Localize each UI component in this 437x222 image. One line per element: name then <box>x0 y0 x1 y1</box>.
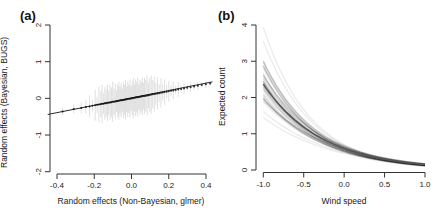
y-tick-label: -1 <box>34 131 43 139</box>
data-point <box>166 91 168 93</box>
data-point <box>160 92 162 94</box>
x-tick-label: 0.0 <box>126 181 138 190</box>
panel-a-label: (a) <box>20 9 36 23</box>
posterior-draw-curve <box>263 118 425 165</box>
data-point <box>96 104 98 106</box>
data-point <box>183 87 185 89</box>
data-point <box>180 88 182 90</box>
data-point <box>193 86 195 88</box>
data-point <box>209 83 211 85</box>
data-point <box>177 89 179 91</box>
x-tick-label: -1.0 <box>256 180 270 189</box>
data-point <box>155 93 157 95</box>
data-point <box>197 85 199 87</box>
data-point <box>172 89 174 91</box>
panel-b-y-axis-title: Expected count <box>217 67 227 126</box>
data-point <box>62 111 64 113</box>
x-tick-label: -0.2 <box>87 181 101 190</box>
data-point <box>162 91 164 93</box>
data-point <box>205 83 207 85</box>
x-tick-label: 0.4 <box>200 181 212 190</box>
data-point <box>98 103 100 105</box>
data-point <box>170 90 172 92</box>
x-tick-label: -0.4 <box>50 181 64 190</box>
data-point <box>164 91 166 93</box>
y-tick-label: 2 <box>240 95 249 100</box>
panel-a-x-axis-title: Random effects (Non-Bayesian, glmer) <box>36 196 226 206</box>
posterior-draw-curve <box>263 89 425 166</box>
x-tick-label: 0.5 <box>379 180 391 189</box>
panel-b-x-axis-title: Wind speed <box>254 196 434 206</box>
panel-a-y-axis-title: Random effects (Bayesian, BUGS) <box>0 37 9 168</box>
data-point <box>168 90 170 92</box>
data-point <box>175 89 177 91</box>
data-point <box>89 105 91 107</box>
data-point <box>156 92 158 94</box>
y-tick-label: 1 <box>34 59 43 64</box>
data-point <box>85 106 87 108</box>
data-point <box>186 87 188 89</box>
y-tick-label: 0 <box>34 96 43 101</box>
y-tick-label: 0 <box>240 167 249 172</box>
data-point <box>73 108 75 110</box>
data-point <box>91 105 93 107</box>
panel-b-label: (b) <box>218 9 235 23</box>
two-panel-figure: -2-1012-0.4-0.20.00.20.4 01234-1.0-0.50.… <box>0 0 437 222</box>
x-tick-label: 1.0 <box>419 180 431 189</box>
x-tick-label: -0.5 <box>297 180 311 189</box>
data-point <box>158 92 160 94</box>
panel-b-chart: 01234-1.0-0.50.00.51.0 <box>217 0 437 222</box>
x-tick-label: 0.0 <box>339 180 351 189</box>
x-tick-label: 0.2 <box>163 181 175 190</box>
data-point <box>201 84 203 86</box>
y-tick-label: 3 <box>240 58 249 63</box>
y-tick-label: 1 <box>240 131 249 136</box>
data-point <box>94 104 96 106</box>
data-point <box>190 86 192 88</box>
y-tick-label: 4 <box>240 22 249 27</box>
y-tick-label: -2 <box>34 168 43 176</box>
panel-a-chart: -2-1012-0.4-0.20.00.20.4 <box>0 0 217 222</box>
data-point <box>80 107 82 109</box>
